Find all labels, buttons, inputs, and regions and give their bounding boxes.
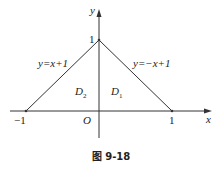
tick-x-neg-1: −1 bbox=[14, 115, 26, 126]
region-d1-label: D1 bbox=[111, 86, 122, 100]
line-y-eq-x-plus-1 bbox=[26, 40, 99, 111]
apex-point bbox=[98, 39, 101, 42]
origin-label: O bbox=[83, 115, 91, 126]
right-vertex-point bbox=[171, 110, 174, 113]
region-d2-label: D2 bbox=[75, 86, 86, 100]
line-label-left: y=x+1 bbox=[38, 58, 68, 69]
line-label-right: y=−x+1 bbox=[133, 58, 171, 69]
line-y-eq-neg-x-plus-1 bbox=[99, 40, 172, 111]
figure-caption: 图 9-18 bbox=[0, 148, 222, 163]
left-vertex-point bbox=[25, 110, 28, 113]
y-axis-arrow-icon bbox=[97, 9, 102, 17]
tick-x-1: 1 bbox=[169, 115, 175, 126]
tick-y-1: 1 bbox=[89, 34, 95, 45]
y-axis-label: y bbox=[90, 5, 95, 16]
x-axis-label: x bbox=[206, 114, 211, 125]
